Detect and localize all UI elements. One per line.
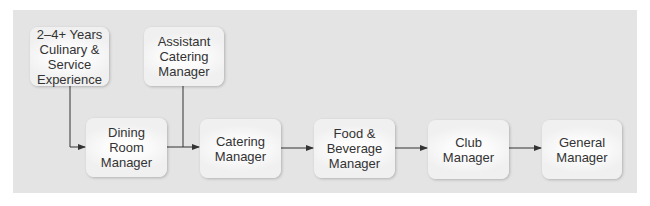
node-label: General Manager xyxy=(556,135,607,165)
node-label: Food & Beverage Manager xyxy=(327,126,383,171)
edge-experience-to-dining xyxy=(70,86,85,147)
node-catering-manager: Catering Manager xyxy=(200,119,281,178)
node-dining-room-manager: Dining Room Manager xyxy=(86,118,167,177)
node-label: Club Manager xyxy=(443,135,494,165)
node-label: Dining Room Manager xyxy=(101,125,152,170)
node-assistant-catering-manager: Assistant Catering Manager xyxy=(144,27,224,86)
node-label: Assistant Catering Manager xyxy=(158,34,211,79)
node-label: 2–4+ Years Culinary & Service Experience xyxy=(37,27,102,87)
node-club-manager: Club Manager xyxy=(428,120,509,179)
node-food-beverage-manager: Food & Beverage Manager xyxy=(314,119,395,178)
node-label: Catering Manager xyxy=(215,134,266,164)
node-general-manager: General Manager xyxy=(542,120,622,179)
node-experience: 2–4+ Years Culinary & Service Experience xyxy=(30,27,109,86)
